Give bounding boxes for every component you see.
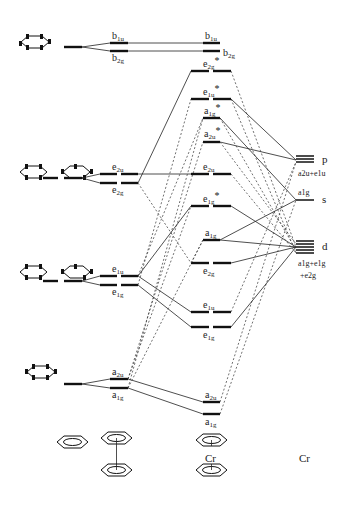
svg-text:e2g*: e2g* xyxy=(203,55,219,71)
svg-text:e2u: e2u xyxy=(203,161,215,174)
ligand-labels: b1u b2g e2u e2g e1u e1g a2u a1g xyxy=(112,30,125,402)
svg-text:a2u: a2u xyxy=(112,366,124,379)
svg-text:e1g: e1g xyxy=(112,286,124,299)
svg-text:a2u*: a2u* xyxy=(204,125,220,141)
correlation-lines-dashed xyxy=(128,71,296,414)
svg-text:b2g: b2g xyxy=(223,47,236,60)
dibenzene-structure xyxy=(101,432,132,476)
svg-text:e1g*: e1g* xyxy=(203,190,219,206)
metal-p-level xyxy=(296,156,314,162)
svg-text:e2u: e2u xyxy=(112,161,124,174)
svg-text:e1u: e1u xyxy=(112,263,124,276)
svg-text:e1u: e1u xyxy=(203,299,215,312)
svg-text:a1g: a1g xyxy=(112,389,124,402)
metal-p-label: p xyxy=(322,153,328,165)
e1-orbital-picture xyxy=(20,264,93,280)
svg-text:e2g: e2g xyxy=(112,184,124,197)
svg-text:e1u*: e1u* xyxy=(203,83,219,99)
svg-text:b1u: b1u xyxy=(205,30,218,43)
ligand-b-levels xyxy=(64,43,220,51)
metal-labels: p a2u+e1u s a1g d a1g+e1g +e2g xyxy=(298,153,328,280)
svg-text:b1u: b1u xyxy=(112,30,125,43)
svg-text:a2u: a2u xyxy=(205,389,217,402)
metal-d-symmetry-2: +e2g xyxy=(300,271,316,280)
complex-cr-label: Cr xyxy=(205,452,216,464)
ligand-e2-levels xyxy=(43,174,138,183)
svg-text:a1g*: a1g* xyxy=(204,102,220,118)
metal-cr-label: Cr xyxy=(299,452,310,464)
metal-p-symmetry: a2u+e1u xyxy=(298,169,326,178)
mo-diagram: b1u b2g e2u e2g e1u e1g a2u a1g b1u b2g … xyxy=(0,0,344,509)
svg-text:e2g: e2g xyxy=(203,265,215,278)
metal-s-symmetry: a1g xyxy=(298,188,310,197)
benzene-structure xyxy=(57,436,88,448)
metal-d-symmetry-1: a1g+e1g xyxy=(298,259,326,268)
svg-text:e1g: e1g xyxy=(203,329,215,342)
a-orbital-picture xyxy=(25,364,57,380)
metal-d-level xyxy=(296,241,314,253)
correlation-lines-solid xyxy=(128,71,296,414)
svg-text:a1g: a1g xyxy=(205,227,217,240)
ligand-e1-levels xyxy=(43,276,138,285)
complex-levels xyxy=(191,71,231,414)
ligand-a-levels xyxy=(64,379,128,388)
complex-labels: b1u b2g e2g* e1u* a1g* a2u* e2u e1g* a1g… xyxy=(203,30,236,429)
svg-text:a1g: a1g xyxy=(205,416,217,429)
svg-text:b2g: b2g xyxy=(112,52,125,65)
b-orbital-picture xyxy=(19,34,51,50)
metal-d-label: d xyxy=(322,240,328,252)
metal-s-label: s xyxy=(322,193,326,205)
